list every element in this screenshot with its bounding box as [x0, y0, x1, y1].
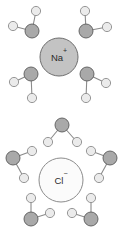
water-na-top-right-oxygen	[79, 24, 93, 38]
water-na-mid-right-hydrogen-1	[101, 78, 110, 87]
water-na-mid-left-hydrogen-1	[9, 77, 18, 86]
water-cl-top-hydrogen-1	[43, 137, 52, 146]
diagram-canvas: Na+Cl−	[0, 0, 122, 246]
water-cl-upper-left-hydrogen-2	[19, 173, 28, 182]
ion-hydration-diagram: Na+Cl−	[0, 0, 122, 246]
water-cl-top-hydrogen-2	[72, 137, 81, 146]
water-na-top-left-hydrogen-1	[31, 6, 40, 15]
water-na-mid-right-oxygen	[80, 67, 94, 81]
water-cl-upper-left-hydrogen-1	[27, 146, 36, 155]
water-cl-upper-right-hydrogen-1	[86, 146, 95, 155]
water-cl-lower-right-oxygen	[84, 212, 98, 226]
water-na-mid-left-oxygen	[24, 67, 38, 81]
water-cl-lower-right-hydrogen-2	[67, 208, 76, 217]
water-na-top-right-hydrogen-2	[102, 22, 111, 31]
water-na-mid-left-hydrogen-2	[27, 93, 36, 102]
water-na-top-left-oxygen	[25, 24, 39, 38]
water-na-top-right-hydrogen-1	[80, 6, 89, 15]
water-cl-lower-right-hydrogen-1	[86, 193, 95, 202]
water-cl-upper-right-hydrogen-2	[94, 173, 103, 182]
water-cl-lower-left-hydrogen-2	[45, 208, 54, 217]
water-cl-top-oxygen	[55, 118, 69, 132]
water-na-top-left-hydrogen-2	[8, 21, 17, 30]
water-cl-upper-right-oxygen	[103, 151, 117, 165]
water-cl-upper-left-oxygen	[6, 151, 20, 165]
water-cl-lower-left-oxygen	[24, 212, 38, 226]
water-na-mid-right-hydrogen-2	[81, 93, 90, 102]
water-cl-lower-left-hydrogen-1	[26, 193, 35, 202]
